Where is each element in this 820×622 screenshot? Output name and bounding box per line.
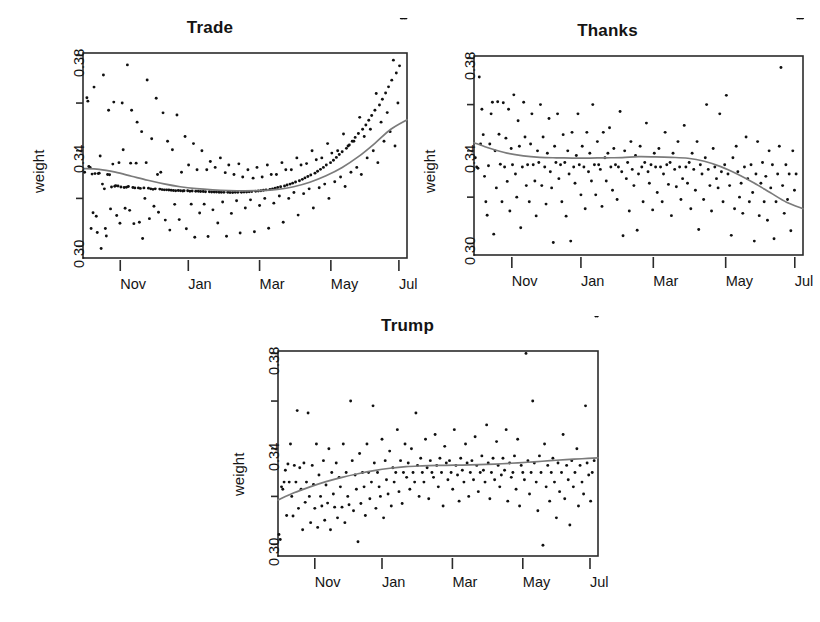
y-axis-tick-label: 0.34 — [71, 144, 87, 172]
plot-area-trump — [195, 316, 620, 616]
chart-panel-trade: Trade weight 0.300.340.38NovJanMarMayJul — [0, 18, 420, 318]
y-axis-tick-label: 0.34 — [462, 145, 478, 173]
y-axis-tick-label: 0.30 — [71, 240, 87, 268]
y-axis-tick-label: 0.38 — [71, 49, 87, 77]
panel-title: Trump — [195, 316, 620, 336]
panel-title: Thanks — [395, 21, 820, 41]
plot-frame — [278, 351, 598, 556]
panel-title: Trade — [0, 18, 420, 38]
chart-panel-thanks: Thanks weight 0.300.340.38NovJanMarMayJu… — [395, 18, 820, 318]
y-axis-tick-label: 0.30 — [462, 237, 478, 265]
plot-frame — [83, 53, 407, 258]
y-axis-label: weight — [421, 150, 438, 193]
y-axis-tick-label: 0.34 — [266, 442, 282, 470]
y-axis-tick-label: 0.30 — [266, 538, 282, 566]
chart-panel-trump: Trump weight 0.300.340.38NovJanMarMayJul — [195, 316, 620, 616]
scatter-points — [474, 18, 804, 244]
loess-smooth-line — [278, 458, 598, 500]
loess-smooth-line — [474, 143, 803, 209]
y-axis-label: weight — [30, 150, 47, 193]
plot-area-thanks — [395, 18, 820, 318]
loess-smooth-line — [83, 120, 407, 191]
plot-area-trade — [0, 18, 420, 318]
y-axis-tick-label: 0.38 — [266, 347, 282, 375]
y-axis-label: weight — [230, 453, 247, 496]
y-axis-tick-label: 0.38 — [462, 52, 478, 80]
